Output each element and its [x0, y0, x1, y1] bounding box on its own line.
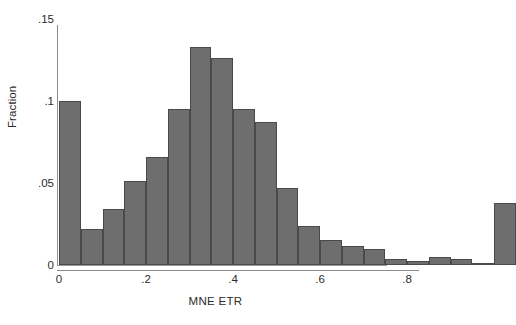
histogram-bar: [364, 249, 386, 265]
histogram-bar: [277, 188, 299, 265]
y-axis-title: Fraction: [6, 28, 24, 128]
histogram-bar: [494, 203, 516, 265]
histogram-bar: [385, 259, 407, 265]
histogram-bar: [255, 122, 277, 265]
histogram-bar: [211, 58, 233, 265]
histogram-bar: [190, 47, 212, 265]
x-tick-label: .4: [213, 273, 253, 285]
x-tick-label: 0: [39, 273, 79, 285]
histogram-bar: [429, 257, 451, 265]
histogram-bar: [342, 246, 364, 265]
histogram-bar: [168, 109, 190, 265]
x-axis-title: MNE ETR: [0, 295, 431, 307]
x-tick-label: .2: [126, 273, 166, 285]
histogram-bar: [81, 229, 103, 265]
x-tick-label: .8: [387, 273, 427, 285]
x-tick-label: .6: [300, 273, 340, 285]
histogram-bar: [233, 109, 255, 265]
histogram-bar: [407, 261, 429, 265]
histogram-bar: [146, 157, 168, 265]
histogram-bar: [472, 263, 494, 265]
histogram-bar: [103, 209, 125, 265]
histogram-bar: [451, 259, 473, 265]
histogram-bar: [124, 181, 146, 265]
histogram-bar: [298, 226, 320, 265]
histogram-bar: [320, 240, 342, 265]
histogram-bar: [59, 101, 81, 265]
